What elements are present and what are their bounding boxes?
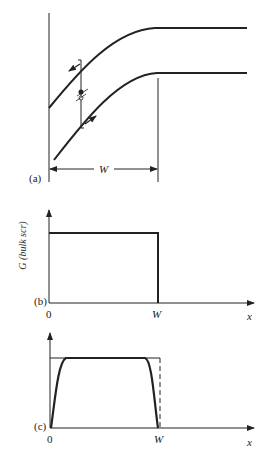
panel-a-label: (a) (29, 173, 41, 184)
panel-b-label: (b) (34, 296, 47, 307)
panel-c (50, 333, 254, 428)
x-axis-label-c: x (247, 437, 252, 448)
tick-w-b: W (152, 309, 161, 320)
panel-c-label: (c) (34, 421, 46, 432)
figure-canvas (0, 0, 267, 453)
width-label: W (99, 164, 108, 175)
x-axis-label-b: x (247, 311, 252, 322)
panel-a (49, 13, 247, 182)
y-axis-label: G (bulk scr) (17, 196, 28, 296)
tick-0-b: 0 (46, 309, 52, 320)
tick-w-c: W (154, 434, 163, 445)
panel-b (49, 210, 254, 303)
tick-0-c: 0 (47, 434, 53, 445)
